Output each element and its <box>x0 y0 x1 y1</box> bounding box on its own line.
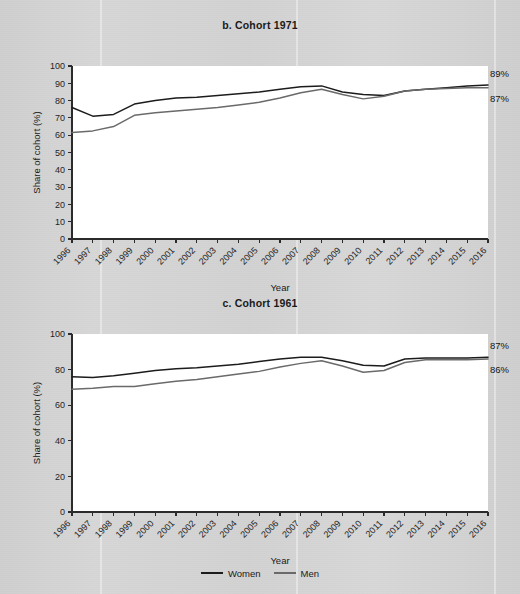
y-axis-tick-label: 80 <box>55 96 65 106</box>
end-label-men: 86% <box>490 364 510 375</box>
figure-legend: Women Men <box>0 560 520 579</box>
x-axis-tick-label: 2005 <box>238 245 259 266</box>
legend-label-women: Women <box>228 568 261 579</box>
x-axis-tick-label: 2009 <box>322 245 343 266</box>
x-axis-tick-label: 2012 <box>384 518 405 539</box>
x-axis-tick-label: 2001 <box>155 518 176 539</box>
y-axis-title: Share of cohort (%) <box>31 111 42 193</box>
plot-area <box>72 334 488 512</box>
y-axis-tick-label: 10 <box>55 217 65 227</box>
x-axis-tick-label: 1998 <box>93 518 114 539</box>
x-axis-tick-label: 2012 <box>384 245 405 266</box>
x-axis-tick-label: 2006 <box>259 518 280 539</box>
x-axis-tick-label: 2003 <box>197 245 218 266</box>
x-axis-tick-label: 2001 <box>155 245 176 266</box>
x-axis-tick-label: 2004 <box>218 245 239 266</box>
x-axis-tick-label: 1998 <box>93 245 114 266</box>
chart-svg-cohort-1971: 0102030405060708090100199619971998199920… <box>0 34 520 296</box>
x-axis-tick-label: 2004 <box>218 518 239 539</box>
x-axis-tick-label: 1997 <box>72 245 93 266</box>
x-axis-tick-label: 2016 <box>467 245 488 266</box>
x-axis-tick-label: 2013 <box>405 245 426 266</box>
x-axis-tick-label: 1999 <box>114 245 135 266</box>
y-axis-tick-label: 30 <box>55 182 65 192</box>
y-axis-tick-label: 0 <box>60 234 65 244</box>
x-axis-tick-label: 1999 <box>114 518 135 539</box>
y-axis-tick-label: 20 <box>55 472 65 482</box>
x-axis-tick-label: 2007 <box>280 245 301 266</box>
y-axis-tick-label: 40 <box>55 165 65 175</box>
plot-area <box>72 66 488 239</box>
x-axis-tick-label: 2000 <box>134 245 155 266</box>
y-axis-tick-label: 60 <box>55 400 65 410</box>
x-axis-tick-label: 2014 <box>426 518 447 539</box>
chart-panel-cohort-1971: b. Cohort 1971 0102030405060708090100199… <box>0 18 520 296</box>
chart-panel-cohort-1961: c. Cohort 1961 0204060801001996199719981… <box>0 296 520 594</box>
y-axis-tick-label: 40 <box>55 436 65 446</box>
y-axis-tick-label: 50 <box>55 148 65 158</box>
x-axis-tick-label: 2002 <box>176 518 197 539</box>
legend-swatch-women-icon <box>201 572 223 574</box>
x-axis-tick-label: 2009 <box>322 518 343 539</box>
y-axis-tick-label: 100 <box>50 329 65 339</box>
chart-title-c: c. Cohort 1961 <box>0 296 520 312</box>
x-axis-tick-label: 2011 <box>364 518 385 539</box>
x-axis-tick-label: 1997 <box>72 518 93 539</box>
x-axis-tick-label: 2007 <box>280 518 301 539</box>
x-axis-tick-label: 2013 <box>405 518 426 539</box>
x-axis-tick-label: 1996 <box>51 245 72 266</box>
x-axis-tick-label: 2002 <box>176 245 197 266</box>
x-axis-tick-label: 2015 <box>446 245 467 266</box>
x-axis-tick-label: 2016 <box>467 518 488 539</box>
x-axis-tick-label: 2010 <box>342 245 363 266</box>
y-axis-tick-label: 0 <box>60 507 65 517</box>
y-axis-tick-label: 80 <box>55 365 65 375</box>
legend-label-men: Men <box>301 568 319 579</box>
y-axis-title: Share of cohort (%) <box>31 382 42 464</box>
y-axis-tick-label: 20 <box>55 200 65 210</box>
x-axis-tick-label: 2011 <box>364 245 385 266</box>
chart-svg-cohort-1961: 0204060801001996199719981999200020012002… <box>0 312 520 574</box>
x-axis-tick-label: 2014 <box>426 245 447 266</box>
x-axis-tick-label: 2005 <box>238 518 259 539</box>
y-axis-tick-label: 90 <box>55 79 65 89</box>
y-axis-tick-label: 60 <box>55 130 65 140</box>
end-label-women: 87% <box>490 340 510 351</box>
y-axis-tick-label: 100 <box>50 61 65 71</box>
y-axis-tick-label: 70 <box>55 113 65 123</box>
x-axis-tick-label: 2008 <box>301 518 322 539</box>
x-axis-tick-label: 2015 <box>446 518 467 539</box>
chart-title-b: b. Cohort 1971 <box>0 18 520 34</box>
end-label-women: 89% <box>490 68 510 79</box>
x-axis-tick-label: 2006 <box>259 245 280 266</box>
legend-item-women: Women <box>201 568 261 579</box>
x-axis-tick-label: 2000 <box>134 518 155 539</box>
x-axis-title: Year <box>270 282 289 293</box>
x-axis-tick-label: 2003 <box>197 518 218 539</box>
legend-item-men: Men <box>274 568 319 579</box>
x-axis-tick-label: 1996 <box>51 518 72 539</box>
x-axis-tick-label: 2008 <box>301 245 322 266</box>
x-axis-tick-label: 2010 <box>342 518 363 539</box>
end-label-men: 87% <box>490 93 510 104</box>
legend-swatch-men-icon <box>274 572 296 574</box>
